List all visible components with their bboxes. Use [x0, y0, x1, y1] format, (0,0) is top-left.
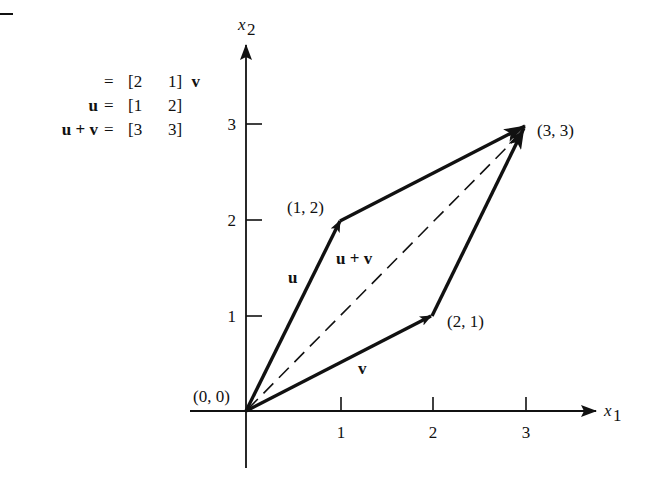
label-point-1-2: (1, 2) — [287, 198, 324, 217]
component-a: 3 — [134, 120, 143, 139]
bracket-close: ] — [177, 120, 183, 139]
component-b: 1 — [168, 72, 177, 91]
x-tick-label-3: 3 — [522, 423, 531, 442]
y-tick-label-2: 2 — [228, 211, 237, 230]
x-tick-label-1: 1 — [337, 423, 346, 442]
x2-axis-label: x 2 — [237, 15, 256, 39]
equation-u: u — [0, 96, 98, 118]
y-tick-label-3: 3 — [228, 115, 237, 134]
equation-sum-eq: = — [104, 120, 114, 140]
x2-axis-label-sub: 2 — [247, 20, 256, 39]
label-vector-v: v — [358, 359, 367, 378]
equation-v-eq: = — [104, 72, 114, 92]
label-origin: (0, 0) — [193, 387, 230, 406]
vector-v-translated — [340, 126, 525, 221]
component-a: 1 — [134, 96, 143, 115]
equals-sign: = — [104, 96, 114, 115]
label-point-3-3: (3, 3) — [537, 121, 574, 140]
equation-v-lhs: v — [192, 72, 201, 92]
equation-u-lhs: u — [89, 96, 98, 116]
bracket-close: ] — [177, 96, 183, 115]
vector-v — [246, 316, 431, 411]
x2-axis-label-base: x — [237, 15, 246, 34]
x1-axis-label-sub: 1 — [613, 406, 622, 425]
component-b: 2 — [168, 96, 177, 115]
component-a: 2 — [134, 72, 143, 91]
equation-sum: u + v — [0, 120, 98, 142]
y-tick-label-1: 1 — [228, 307, 237, 326]
equation-sum-b: 3] — [168, 120, 182, 140]
equation-u-eq: = — [104, 96, 114, 116]
label-vector-u-plus-v: u + v — [336, 249, 373, 268]
x1-axis-label-base: x — [603, 401, 612, 420]
vector-u-translated — [432, 128, 524, 316]
label-point-2-1: (2, 1) — [447, 312, 484, 331]
x1-axis-label: x 1 — [603, 401, 622, 425]
equals-sign: = — [104, 72, 114, 91]
equation-u-b: 2] — [168, 96, 182, 116]
equation-sum-rhs: [3 — [128, 120, 142, 140]
equals-sign: = — [104, 120, 114, 139]
equation-sum-lhs: u + v — [62, 120, 98, 140]
x-tick-label-2: 2 — [429, 423, 438, 442]
component-b: 3 — [168, 120, 177, 139]
equation-v-rhs: [2 — [128, 72, 142, 92]
equation-v-b: 1] — [168, 72, 182, 92]
bracket-close: ] — [177, 72, 183, 91]
equation-u-rhs: [1 — [128, 96, 142, 116]
label-vector-u: u — [288, 268, 297, 287]
